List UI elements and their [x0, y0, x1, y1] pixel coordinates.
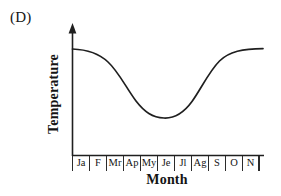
x-tick-cell-7: Ag	[191, 156, 208, 171]
x-tick-cell-10: N	[242, 156, 259, 171]
x-tick-label-8: S	[214, 157, 220, 168]
x-tick-cell-3: Ap	[123, 156, 140, 171]
x-axis-label: Month	[72, 172, 262, 188]
x-tick-label-6: Jl	[179, 157, 186, 168]
x-tick-cell-6: Jl	[174, 156, 191, 171]
x-tick-cell-5: Je	[157, 156, 174, 171]
x-tick-label-1: F	[95, 157, 101, 168]
x-tick-cell-2: Mr	[106, 156, 123, 171]
x-tick-label-3: Ap	[126, 157, 139, 168]
x-tick-label-10: N	[247, 157, 255, 168]
x-tick-label-9: O	[230, 157, 238, 168]
x-tick-label-5: Je	[162, 157, 171, 168]
x-tick-cell-trailing	[259, 156, 260, 171]
x-tick-label-7: Ag	[194, 157, 207, 168]
temperature-curve	[73, 49, 264, 118]
x-tick-cell-0: Ja	[72, 156, 89, 171]
x-tick-cell-8: S	[208, 156, 225, 171]
x-tick-label-0: Ja	[77, 157, 86, 168]
x-tick-label-2: Mr	[109, 157, 122, 168]
x-tick-cell-1: F	[89, 156, 106, 171]
x-tick-cell-4: My	[140, 156, 157, 171]
x-axis-tick-labels: Ja F Mr Ap My Je Jl Ag S O N	[72, 156, 260, 171]
y-axis-arrow-icon	[69, 23, 77, 34]
figure-panel-d: (D) Temperature Ja F Mr Ap My Je Jl Ag S…	[0, 0, 281, 196]
x-tick-label-4: My	[142, 157, 157, 168]
x-tick-cell-9: O	[225, 156, 242, 171]
